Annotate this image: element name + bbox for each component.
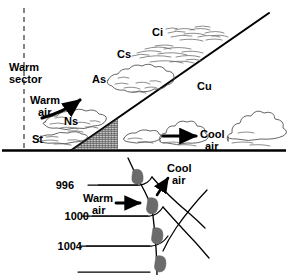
map-warm-air-label-line2: air <box>92 204 106 216</box>
stratus-label: St <box>32 133 43 145</box>
isobar-label-1000: 1000 <box>65 210 89 222</box>
cirrostratus-label: Cs <box>117 48 131 60</box>
altostratus-cloud <box>107 64 174 93</box>
cumulus-cloud-right <box>227 111 286 146</box>
diagram-canvas: Warm sector Warm air Cool air Ci Cs As C… <box>0 0 288 275</box>
low-cloud-patch <box>124 130 162 143</box>
warm-air-label-line1: Warm <box>30 94 60 106</box>
warm-sector-label-line1: Warm <box>9 61 39 73</box>
warm-front-bump-1 <box>132 169 143 184</box>
cool-air-label-line2: air <box>205 140 219 152</box>
nimbostratus-label: Ns <box>64 115 78 127</box>
map-cool-air-label-line1: Cool <box>167 162 191 174</box>
altostratus-label: As <box>92 73 106 85</box>
cool-air-label-line1: Cool <box>200 128 224 140</box>
cirrostratus-cloud <box>132 45 203 63</box>
cirrus-label: Ci <box>152 26 163 38</box>
trough-curve-right <box>163 190 207 251</box>
isobar-label-1004: 1004 <box>58 240 83 252</box>
warm-front-bump-2 <box>147 198 159 214</box>
cirrus-cloud <box>166 26 228 41</box>
warm-front-bump-3 <box>152 228 164 244</box>
isobar-label-996: 996 <box>56 179 74 191</box>
map-cool-air-label-line2: air <box>172 174 186 186</box>
map-warm-air-label-line1: Warm <box>83 192 113 204</box>
cumulus-label: Cu <box>197 80 212 92</box>
warm-air-label-line2: air <box>38 106 52 118</box>
warm-sector-label-line2: sector <box>9 73 43 85</box>
warm-front-bump-4 <box>155 256 167 272</box>
warm-front-figure: Warm sector Warm air Cool air Ci Cs As C… <box>0 0 288 275</box>
